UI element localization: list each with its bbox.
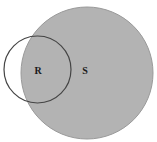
set-r-label: R [34, 65, 42, 76]
set-s-label: S [82, 65, 88, 76]
venn-diagram: R S [0, 0, 157, 142]
